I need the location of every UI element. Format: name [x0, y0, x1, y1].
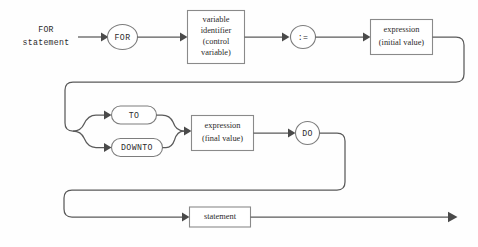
arrow-into-expr-initial-icon: [363, 33, 371, 42]
node-variable-identifier-line3: (control: [203, 37, 230, 46]
node-keyword-do: DO: [296, 122, 320, 145]
node-variable-identifier: variable identifier (control variable): [188, 11, 245, 64]
node-keyword-for: FOR: [108, 25, 138, 50]
railroad-diagram-canvas: FOR statement FOR variable identifier (c…: [0, 0, 478, 247]
entry-label-line1: FOR: [38, 25, 54, 34]
arrow-into-statement-icon: [182, 213, 190, 222]
node-keyword-for-label: FOR: [115, 33, 131, 42]
node-keyword-do-label: DO: [302, 129, 313, 138]
rail-to-merge: [157, 115, 185, 131]
arrow-into-variable-icon: [180, 33, 188, 42]
node-expression-final-value: expression (final value): [192, 116, 254, 151]
entry-label: FOR statement: [23, 25, 70, 47]
arrow-into-to-icon: [104, 111, 112, 120]
arrow-into-downto-icon: [104, 143, 112, 152]
node-assignment-operator-label: :=: [298, 33, 309, 42]
node-assignment-operator: :=: [291, 26, 316, 49]
node-expression-initial-value-line1: expression: [384, 25, 421, 34]
node-keyword-downto: DOWNTO: [112, 139, 163, 157]
node-variable-identifier-line4: variable): [201, 48, 231, 57]
node-variable-identifier-line1: variable: [203, 15, 230, 24]
node-expression-final-value-line1: expression: [205, 121, 242, 130]
node-keyword-to: TO: [112, 106, 157, 124]
for-statement-railroad-diagram: FOR statement FOR variable identifier (c…: [0, 0, 478, 247]
node-keyword-to-label: TO: [129, 111, 140, 120]
node-statement: statement: [190, 207, 251, 227]
rail-split-to-to: [65, 115, 104, 131]
node-expression-initial-value-line2: (initial value): [379, 38, 425, 47]
rail-downto-merge: [163, 131, 185, 148]
arrow-into-do-icon: [288, 129, 296, 138]
node-expression-initial-value: expression (initial value): [371, 20, 433, 55]
rail-split-to-downto: [73, 131, 104, 148]
node-keyword-downto-label: DOWNTO: [121, 143, 153, 152]
arrow-into-assign-icon: [282, 33, 290, 42]
node-variable-identifier-line2: identifier: [201, 26, 232, 35]
arrow-into-expr-final-icon: [184, 127, 192, 136]
entry-label-line2: statement: [23, 38, 70, 47]
node-expression-final-value-line2: (final value): [202, 134, 243, 143]
arrow-exit-icon: [448, 212, 458, 222]
node-statement-label: statement: [204, 212, 237, 221]
